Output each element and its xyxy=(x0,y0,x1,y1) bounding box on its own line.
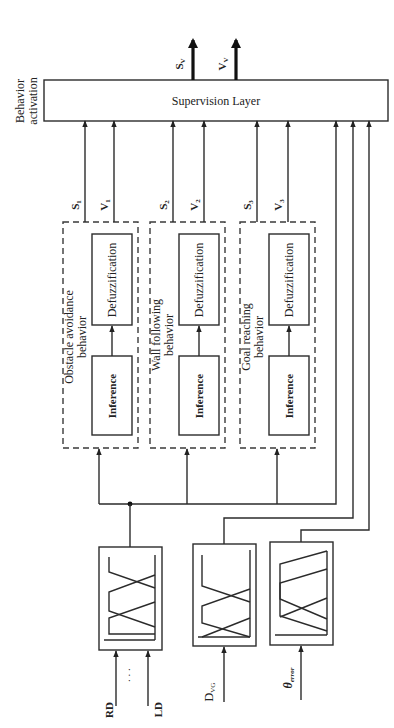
behavior-label-1: Obstacle avoidance behavior xyxy=(62,290,89,384)
svg-text:behavior: behavior xyxy=(252,316,266,358)
svg-text:Defuzzification: Defuzzification xyxy=(282,243,296,318)
svg-text:Obstacle avoidance: Obstacle avoidance xyxy=(62,290,76,384)
svg-text:RD: RD xyxy=(103,702,115,718)
svg-text:Inference: Inference xyxy=(283,374,295,419)
fuzzifier-heading-error: θerror xyxy=(270,542,333,700)
supervision-layer-label: Supervision Layer xyxy=(172,94,260,108)
behavior-wall-following: Defuzzification Inference Wall following… xyxy=(149,121,225,448)
svg-text:behavior: behavior xyxy=(75,316,89,358)
svg-text:SV: SV xyxy=(173,58,187,69)
fuzzifier-goal-distance: DVG xyxy=(193,544,256,702)
svg-text:V3: V3 xyxy=(272,199,286,211)
svg-text:Inference: Inference xyxy=(193,374,205,419)
input-bus xyxy=(99,121,369,547)
svg-text:Defuzzification: Defuzzification xyxy=(105,243,119,318)
svg-text:Behavior: Behavior xyxy=(13,79,27,123)
svg-text:Defuzzification: Defuzzification xyxy=(192,243,206,318)
behavior-activation-label: Behavior activation xyxy=(13,77,40,124)
fuzzy-behavior-architecture-diagram: Supervision Layer Behavior activation SV… xyxy=(0,0,394,728)
svg-text:. . .: . . . xyxy=(120,668,132,682)
sv-label: SV xyxy=(173,58,187,69)
fuzzifier-distance-sensors: . . . RD LD xyxy=(99,547,164,718)
svg-text:S1: S1 xyxy=(69,200,83,210)
svg-text:VV: VV xyxy=(216,57,230,70)
svg-text:S2: S2 xyxy=(157,200,171,210)
svg-text:V1: V1 xyxy=(98,199,112,211)
svg-text:θerror: θerror xyxy=(281,667,296,688)
supervision-outputs: SV VV xyxy=(173,40,236,80)
svg-text:S3: S3 xyxy=(241,200,255,210)
svg-text:activation: activation xyxy=(26,77,40,124)
svg-text:Wall following: Wall following xyxy=(149,299,163,371)
svg-text:V2: V2 xyxy=(188,199,202,211)
behavior-goal-reaching: Defuzzification Inference Goal reaching … xyxy=(239,121,315,448)
behavior-label-2: Wall following behavior xyxy=(149,299,176,371)
vv-label: VV xyxy=(216,57,230,70)
svg-text:Inference: Inference xyxy=(106,374,118,419)
behavior-obstacle-avoidance: Defuzzification Inference Obstacle avoid… xyxy=(62,121,138,448)
svg-text:LD: LD xyxy=(152,702,164,717)
svg-text:Goal reaching: Goal reaching xyxy=(239,303,253,371)
supervision-layer: Supervision Layer xyxy=(44,80,388,121)
behavior-label-3: Goal reaching behavior xyxy=(239,303,266,371)
svg-text:DVG: DVG xyxy=(202,683,217,702)
svg-text:behavior: behavior xyxy=(162,314,176,356)
